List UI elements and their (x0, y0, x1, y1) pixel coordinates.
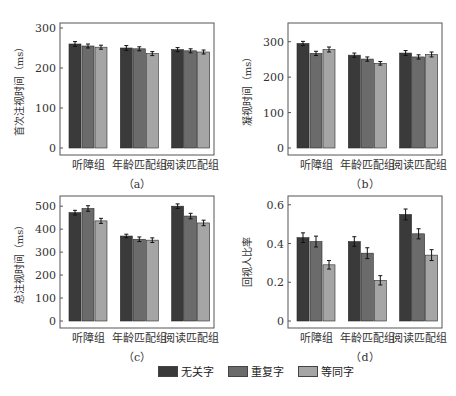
y-tick-label: 500 (35, 200, 56, 213)
x-category-label: 听障组 (72, 158, 105, 172)
bar (146, 240, 158, 321)
chart-panel-c: 0100200300400500总注视时间（ms）听障组年龄匹配组阅读匹配组（c… (0, 173, 228, 367)
bar (426, 255, 438, 321)
bar (172, 50, 184, 148)
bar (297, 43, 309, 148)
x-category-label: 阅读匹配组 (164, 331, 219, 345)
legend-label: 无关字 (181, 363, 214, 379)
bar (198, 223, 210, 321)
y-tick-label: 0 (49, 315, 56, 328)
bar (413, 57, 425, 148)
bar (69, 213, 81, 321)
y-tick-label: 200 (35, 269, 56, 282)
bar-chart-total-fixation: 0100200300400500总注视时间（ms）听障组年龄匹配组阅读匹配组（c… (0, 173, 228, 363)
y-tick-label: 0 (277, 315, 284, 328)
y-tick-label: 0 (49, 142, 56, 155)
bar (185, 51, 197, 148)
x-category-label: 阅读匹配组 (392, 331, 447, 345)
bar (95, 47, 107, 148)
y-tick-label: 300 (35, 246, 56, 259)
y-tick-label: 100 (263, 107, 284, 120)
x-category-label: 年龄匹配组 (340, 331, 395, 345)
y-tick-label: 200 (35, 62, 56, 75)
chart-panel-a: 0100200300首次注视时间（ms）听障组年龄匹配组阅读匹配组（a） (0, 0, 228, 194)
bar (133, 49, 145, 148)
y-axis-label: 凝视时间（ms） (241, 52, 253, 127)
bar-chart-gaze-duration: 0100200300凝视时间（ms）听障组年龄匹配组阅读匹配组（b） (228, 0, 456, 190)
bar (120, 48, 132, 148)
bar (185, 216, 197, 321)
bar (297, 238, 309, 321)
bar (426, 54, 438, 148)
legend-label: 等同字 (321, 363, 354, 379)
x-category-label: 年龄匹配组 (112, 331, 167, 345)
bar-chart-first-fixation: 0100200300首次注视时间（ms）听障组年龄匹配组阅读匹配组（a） (0, 0, 228, 190)
bar (69, 44, 81, 148)
bar (361, 59, 373, 148)
bar (146, 54, 158, 148)
y-axis-label: 总注视时间（ms） (13, 220, 25, 305)
y-tick-label: 400 (35, 223, 56, 236)
bar (133, 239, 145, 321)
x-category-label: 年龄匹配组 (340, 158, 395, 172)
bar (198, 52, 210, 148)
bar (400, 214, 412, 321)
legend-swatch-repeated (228, 366, 248, 377)
bar (310, 242, 322, 321)
x-category-label: 听障组 (300, 331, 333, 345)
bar-chart-regression-rate: 00.20.40.6回视人比率听障组年龄匹配组阅读匹配组（d） (228, 173, 456, 363)
y-tick-label: 0 (277, 142, 284, 155)
bar (310, 53, 322, 148)
bar (400, 53, 412, 148)
legend-swatch-unrelated (158, 366, 178, 377)
x-category-label: 年龄匹配组 (112, 158, 167, 172)
bar (323, 50, 335, 148)
bar (413, 234, 425, 321)
y-tick-label: 300 (35, 22, 56, 35)
x-category-label: 阅读匹配组 (164, 158, 219, 172)
legend-label: 重复字 (251, 363, 284, 379)
x-category-label: 阅读匹配组 (392, 158, 447, 172)
panel-label: （c） (123, 351, 151, 363)
bar (374, 63, 386, 148)
bar (361, 253, 373, 321)
y-tick-label: 0.2 (267, 276, 285, 289)
chart-panel-d: 00.20.40.6回视人比率听障组年龄匹配组阅读匹配组（d） (228, 173, 456, 367)
chart-panel-b: 0100200300凝视时间（ms）听障组年龄匹配组阅读匹配组（b） (228, 0, 456, 194)
y-tick-label: 0.6 (267, 199, 285, 212)
bar (120, 236, 132, 321)
y-axis-label: 回视人比率 (241, 237, 253, 287)
chart-legend: 无关字 重复字 等同字 (158, 363, 354, 379)
y-tick-label: 100 (35, 292, 56, 305)
bar (348, 55, 360, 148)
legend-item-repeated: 重复字 (228, 363, 284, 379)
y-tick-label: 300 (263, 36, 284, 49)
panel-label: （d） (350, 351, 379, 363)
x-category-label: 听障组 (300, 158, 333, 172)
legend-item-unrelated: 无关字 (158, 363, 214, 379)
bar (95, 221, 107, 321)
y-tick-label: 200 (263, 71, 284, 84)
bar (348, 242, 360, 321)
bar (82, 46, 94, 148)
legend-swatch-equivalent (298, 366, 318, 377)
y-tick-label: 100 (35, 102, 56, 115)
x-category-label: 听障组 (72, 331, 105, 345)
y-axis-label: 首次注视时间（ms） (13, 42, 25, 137)
y-tick-label: 0.4 (267, 238, 285, 251)
legend-item-equivalent: 等同字 (298, 363, 354, 379)
bar (374, 280, 386, 321)
bar (82, 208, 94, 321)
bar (172, 206, 184, 321)
bar (323, 265, 335, 321)
